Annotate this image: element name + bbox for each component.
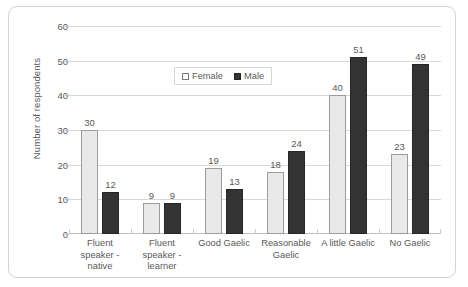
bar-female[interactable]: 18 bbox=[267, 172, 284, 234]
category-tick bbox=[317, 229, 318, 234]
bar-female[interactable]: 40 bbox=[329, 95, 346, 234]
y-axis-tick-mark bbox=[65, 234, 69, 235]
y-axis-tick-label: 10 bbox=[34, 194, 68, 205]
legend-label-female: Female bbox=[192, 71, 223, 81]
bar-value-label: 40 bbox=[332, 82, 343, 93]
x-axis-label: Good Gaelic bbox=[193, 238, 255, 273]
x-axis-label-line: Gaelic bbox=[256, 250, 316, 262]
bar-value-label: 51 bbox=[353, 44, 364, 55]
legend-item-male: Male bbox=[234, 71, 264, 81]
y-axis-tick-label: 30 bbox=[34, 125, 68, 136]
y-axis-tick-label: 0 bbox=[34, 229, 68, 240]
bar-group: 1824 bbox=[255, 26, 317, 234]
category-tick bbox=[440, 229, 441, 234]
bar-male[interactable]: 49 bbox=[412, 64, 429, 234]
bar-pair: 4051 bbox=[317, 26, 379, 234]
x-axis-labels: Fluent speaker -nativeFluent speaker -le… bbox=[69, 238, 441, 273]
x-axis-label-line: Reasonable bbox=[256, 238, 316, 250]
y-axis-tick-label: 50 bbox=[34, 55, 68, 66]
bar-male[interactable]: 24 bbox=[288, 151, 305, 234]
x-axis-label: Fluent speaker -learner bbox=[131, 238, 193, 273]
x-axis-label-line: learner bbox=[132, 261, 192, 273]
bar-female[interactable]: 30 bbox=[81, 130, 98, 234]
bar-value-label: 19 bbox=[208, 155, 219, 166]
chart-frame: Number of respondents 0102030405060 3012… bbox=[8, 6, 456, 278]
bar-group: 1913 bbox=[193, 26, 255, 234]
y-axis-tick-label: 40 bbox=[34, 90, 68, 101]
bar-value-label: 30 bbox=[84, 117, 95, 128]
bar-male[interactable]: 51 bbox=[350, 57, 367, 234]
category-tick bbox=[69, 229, 70, 234]
x-axis-label-line: Fluent speaker - bbox=[132, 238, 192, 261]
plot-area: 0102030405060 3012991913182440512349 bbox=[69, 26, 441, 234]
chart-legend: Female Male bbox=[174, 67, 272, 85]
bar-value-label: 9 bbox=[170, 190, 175, 201]
filled-square-swatch-icon bbox=[234, 73, 241, 80]
x-axis-label: Fluent speaker -native bbox=[69, 238, 131, 273]
bar-pair: 99 bbox=[131, 26, 193, 234]
bar-value-label: 12 bbox=[105, 179, 116, 190]
bar-pair: 1913 bbox=[193, 26, 255, 234]
x-axis-label: No Gaelic bbox=[379, 238, 441, 273]
category-tick bbox=[255, 229, 256, 234]
legend-item-female: Female bbox=[182, 71, 223, 81]
bar-group: 2349 bbox=[379, 26, 441, 234]
bar-male[interactable]: 9 bbox=[164, 203, 181, 234]
bar-group: 3012 bbox=[69, 26, 131, 234]
x-axis-label-line: native bbox=[70, 261, 130, 273]
x-axis-label-line: Fluent speaker - bbox=[70, 238, 130, 261]
bar-female[interactable]: 23 bbox=[391, 154, 408, 234]
bar-male[interactable]: 12 bbox=[102, 192, 119, 234]
x-axis-label-line: No Gaelic bbox=[380, 238, 440, 250]
bar-female[interactable]: 19 bbox=[205, 168, 222, 234]
bar-pair: 2349 bbox=[379, 26, 441, 234]
bar-pair: 1824 bbox=[255, 26, 317, 234]
x-axis-label-line: A little Gaelic bbox=[318, 238, 378, 250]
x-axis-label: A little Gaelic bbox=[317, 238, 379, 273]
x-axis-label: ReasonableGaelic bbox=[255, 238, 317, 273]
bar-value-label: 18 bbox=[270, 159, 281, 170]
category-tick bbox=[379, 229, 380, 234]
y-axis-tick-label: 20 bbox=[34, 159, 68, 170]
y-axis-tick-label: 60 bbox=[34, 21, 68, 32]
bar-value-label: 13 bbox=[229, 176, 240, 187]
bar-group: 4051 bbox=[317, 26, 379, 234]
bar-value-label: 49 bbox=[415, 51, 426, 62]
bar-pair: 3012 bbox=[69, 26, 131, 234]
bar-value-label: 9 bbox=[149, 190, 154, 201]
bar-male[interactable]: 13 bbox=[226, 189, 243, 234]
bar-value-label: 23 bbox=[394, 141, 405, 152]
legend-label-male: Male bbox=[244, 71, 264, 81]
x-axis-label-line: Good Gaelic bbox=[194, 238, 254, 250]
category-tick bbox=[193, 229, 194, 234]
bar-female[interactable]: 9 bbox=[143, 203, 160, 234]
category-tick bbox=[131, 229, 132, 234]
open-square-swatch-icon bbox=[182, 73, 189, 80]
bar-group: 99 bbox=[131, 26, 193, 234]
bar-value-label: 24 bbox=[291, 138, 302, 149]
bar-groups: 3012991913182440512349 bbox=[69, 26, 441, 234]
